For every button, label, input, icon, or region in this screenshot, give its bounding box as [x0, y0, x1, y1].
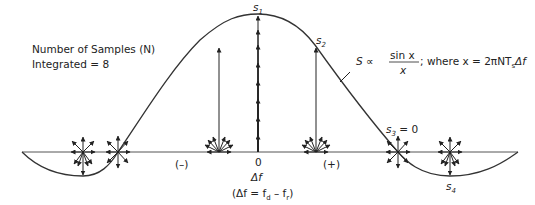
negative-region-label: (–)	[175, 158, 188, 170]
formula-lhs: S ∝	[356, 55, 374, 67]
formula-leader-line	[340, 72, 350, 82]
s4-label: s4	[446, 180, 456, 195]
s4-mirror-vectors	[71, 137, 95, 175]
formula-denominator: x	[399, 64, 407, 76]
s2-vector	[302, 48, 330, 152]
s2-mirror-vector	[205, 48, 233, 152]
s3-null-vectors	[386, 136, 410, 168]
delta-f-definition: (Δf = fd – fr)	[232, 187, 293, 202]
delta-f-label: Δf	[250, 171, 264, 183]
legend-line-2: Integrated = 8	[32, 58, 109, 70]
s3-label: s3 = 0	[386, 123, 418, 138]
formula-numerator: sin x	[390, 49, 415, 61]
positive-region-label: (+)	[323, 158, 340, 170]
s2-label: s2	[316, 34, 326, 49]
s4-vectors	[438, 137, 462, 175]
zero-label: 0	[255, 156, 262, 168]
sinc-diagram: Number of Samples (N) Integrated = 8 s1 …	[0, 0, 535, 205]
formula-definition: ; where x = 2πNTsΔf	[420, 55, 528, 70]
legend-line-1: Number of Samples (N)	[32, 43, 155, 55]
